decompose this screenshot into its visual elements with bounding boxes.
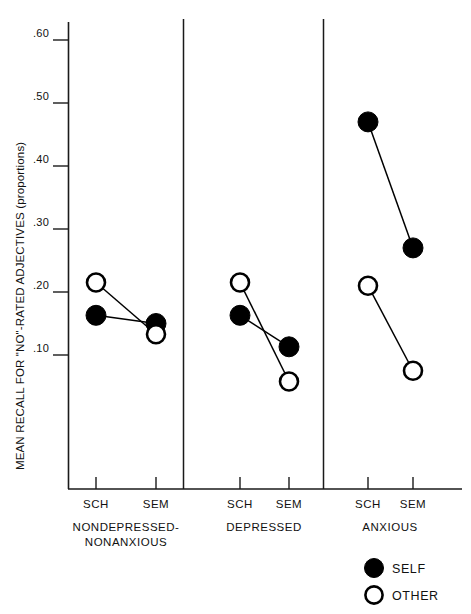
y-tick-label-30: .30 (33, 216, 49, 228)
x-label-p2-sch: SCH (355, 498, 381, 510)
data-point-other-sem-panel-0 (147, 325, 165, 343)
data-point-self-sch-panel-0 (86, 305, 106, 325)
y-tick-label-50: .50 (33, 90, 49, 102)
y-tick-label-60: .60 (33, 27, 49, 39)
x-label-p1-sem: SEM (276, 498, 302, 510)
y-tick-label-40: .40 (33, 153, 49, 165)
y-tick-labels: .60 .50 .40 .30 .20 .10 (33, 27, 49, 354)
data-point-self-sem-panel-2 (403, 238, 423, 258)
x-tick-marks (96, 477, 413, 489)
data-point-other-sch-panel-2 (359, 277, 377, 295)
data-point-self-sem-panel-1 (279, 337, 299, 357)
legend-label-other: OTHER (392, 589, 439, 603)
series-line-other-panel-2 (368, 286, 413, 371)
y-axis-label: MEAN RECALL FOR "NO"-RATED ADJECTIVES (p… (14, 142, 26, 470)
panel-label-depressed: DEPRESSED (226, 521, 301, 533)
data-point-other-sch-panel-1 (231, 274, 249, 292)
panel-label-nondepressed-line1: NONDEPRESSED- (73, 521, 180, 533)
figure-container: MEAN RECALL FOR "NO"-RATED ADJECTIVES (p… (0, 0, 471, 614)
y-tick-marks (53, 40, 68, 355)
legend-marker-other-icon (365, 586, 382, 603)
panel-label-nondepressed-line2: NONANXIOUS (85, 536, 167, 548)
data-point-self-sch-panel-1 (230, 305, 250, 325)
y-tick-label-10: .10 (33, 342, 49, 354)
x-label-p0-sch: SCH (83, 498, 109, 510)
x-tick-labels: SCH SEM SCH SEM SCH SEM (83, 498, 426, 510)
data-point-self-sch-panel-2 (358, 112, 378, 132)
data-point-other-sem-panel-2 (404, 362, 422, 380)
legend: SELF OTHER (365, 559, 439, 604)
line-chart: MEAN RECALL FOR "NO"-RATED ADJECTIVES (p… (0, 0, 471, 614)
panel-group-labels: NONDEPRESSED- NONANXIOUS DEPRESSED ANXIO… (73, 521, 418, 548)
panel-label-anxious: ANXIOUS (362, 521, 417, 533)
data-point-other-sch-panel-0 (87, 274, 105, 292)
x-label-p2-sem: SEM (400, 498, 426, 510)
legend-marker-self-icon (365, 559, 384, 578)
legend-label-self: SELF (392, 562, 426, 576)
data-point-other-sem-panel-1 (280, 372, 298, 390)
data-series-layer (86, 112, 423, 391)
y-tick-label-20: .20 (33, 279, 49, 291)
series-line-self-panel-2 (368, 122, 413, 248)
x-label-p1-sch: SCH (227, 498, 253, 510)
series-line-other-panel-1 (240, 283, 289, 382)
x-label-p0-sem: SEM (143, 498, 169, 510)
